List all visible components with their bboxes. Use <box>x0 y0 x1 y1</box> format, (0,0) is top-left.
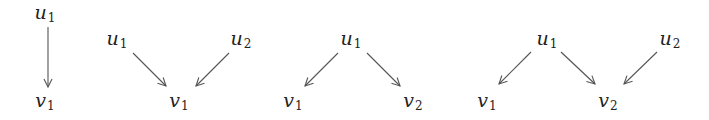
node-d3-v1: v1 <box>283 91 302 112</box>
edge-d4-u2-to-d4-v2 <box>624 52 657 84</box>
node-d1-u1: u1 <box>35 3 56 24</box>
node-subscript: 2 <box>673 37 681 51</box>
node-subscript: 2 <box>415 99 423 113</box>
edge-d2-u1-to-d2-v1 <box>133 53 166 86</box>
edge-d4-u1-to-d4-v2 <box>561 52 595 84</box>
node-label: u <box>231 27 243 49</box>
node-subscript: 1 <box>181 99 189 113</box>
diagram-canvas: u1v1u1u2v1u1v1v2u1u2v1v2 <box>0 0 709 120</box>
node-subscript: 1 <box>120 37 128 51</box>
node-label: u <box>660 27 672 49</box>
node-d3-v2: v2 <box>403 91 422 112</box>
node-label: v <box>598 89 609 111</box>
node-d3-u1: u1 <box>341 29 362 50</box>
node-label: v <box>477 89 488 111</box>
node-label: v <box>35 89 46 111</box>
edge-d4-u1-to-d4-v1 <box>499 52 531 84</box>
node-d2-u1: u1 <box>107 29 128 50</box>
node-label: u <box>107 27 119 49</box>
node-subscript: 1 <box>47 99 55 113</box>
edge-d2-u2-to-d2-v1 <box>196 53 229 86</box>
edge-d3-u1-to-d3-v2 <box>367 53 400 86</box>
node-subscript: 1 <box>354 37 362 51</box>
node-d1-v1: v1 <box>35 91 54 112</box>
node-label: v <box>169 89 180 111</box>
node-d4-v2: v2 <box>598 91 617 112</box>
node-d2-v1: v1 <box>169 91 188 112</box>
node-d4-v1: v1 <box>477 91 496 112</box>
node-subscript: 1 <box>489 99 497 113</box>
node-subscript: 1 <box>295 99 303 113</box>
node-label: u <box>341 27 353 49</box>
node-label: v <box>283 89 294 111</box>
edge-d3-u1-to-d3-v1 <box>305 53 338 86</box>
node-subscript: 2 <box>244 37 252 51</box>
node-label: u <box>537 27 549 49</box>
node-label: v <box>403 89 414 111</box>
node-d4-u1: u1 <box>537 29 558 50</box>
node-subscript: 1 <box>48 11 56 25</box>
node-d4-u2: u2 <box>660 29 681 50</box>
node-subscript: 1 <box>550 37 558 51</box>
node-label: u <box>35 1 47 23</box>
node-subscript: 2 <box>610 99 618 113</box>
node-d2-u2: u2 <box>231 29 252 50</box>
